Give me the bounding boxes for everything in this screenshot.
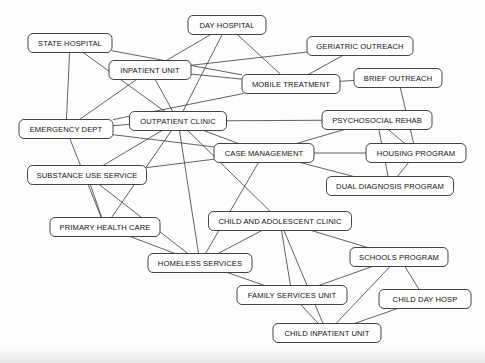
node-label-child_day_hosp: CHILD DAY HOSP bbox=[393, 295, 458, 304]
node-label-mobile_treatment: MOBILE TREATMENT bbox=[252, 80, 330, 89]
node-inpatient_unit[interactable]: INPATIENT UNIT bbox=[109, 61, 191, 80]
node-day_hospital[interactable]: DAY HOSPITAL bbox=[188, 16, 266, 35]
edge-inpatient_unit-to-mobile_treatment bbox=[191, 74, 242, 79]
node-brief_outreach[interactable]: BRIEF OUTREACH bbox=[354, 69, 442, 88]
edge-case_management-to-homeless_services bbox=[206, 163, 259, 254]
edge-mobile_treatment-to-brief_outreach bbox=[340, 80, 354, 81]
edge-geriatric_outreach-to-mobile_treatment bbox=[308, 56, 343, 75]
edge-case_management-to-emergency_dept bbox=[113, 135, 214, 147]
edge-family_services_unit-to-child_inpatient_unit bbox=[301, 305, 319, 324]
node-label-outpatient_clinic: OUTPATIENT CLINIC bbox=[140, 117, 216, 126]
edge-day_hospital-to-mobile_treatment bbox=[237, 35, 280, 75]
edge-case_management-to-dual_diagnosis bbox=[300, 163, 353, 177]
edge-schools_program-to-child_day_hosp bbox=[405, 267, 419, 290]
node-dual_diagnosis[interactable]: DUAL DIAGNOSIS PROGRAM bbox=[327, 177, 454, 196]
edge-psychosocial_rehab-to-housing_program bbox=[388, 130, 405, 144]
graph-canvas: STATE HOSPITALDAY HOSPITALINPATIENT UNIT… bbox=[0, 0, 485, 363]
edge-outpatient_clinic-to-child_adolescent bbox=[188, 131, 271, 212]
edge-inpatient_unit-to-geriatric_outreach bbox=[191, 52, 307, 65]
node-emergency_dept[interactable]: EMERGENCY DEPT bbox=[19, 120, 113, 139]
node-mobile_treatment[interactable]: MOBILE TREATMENT bbox=[242, 75, 340, 94]
node-label-geriatric_outreach: GERIATRIC OUTREACH bbox=[316, 42, 403, 51]
edge-outpatient_clinic-to-case_management bbox=[204, 131, 239, 144]
node-family_services_unit[interactable]: FAMILY SERVICES UNIT bbox=[237, 286, 347, 305]
node-label-dual_diagnosis: DUAL DIAGNOSIS PROGRAM bbox=[336, 182, 444, 191]
node-label-child_inpatient_unit: CHILD INPATIENT UNIT bbox=[284, 329, 369, 338]
node-substance_use_service[interactable]: SUBSTANCE USE SERVICE bbox=[28, 166, 147, 185]
edge-state_hospital-to-emergency_dept bbox=[66, 53, 69, 120]
node-label-family_services_unit: FAMILY SERVICES UNIT bbox=[248, 291, 337, 300]
node-label-case_management: CASE MANAGEMENT bbox=[225, 149, 304, 158]
node-schools_program[interactable]: SCHOOLS PROGRAM bbox=[350, 248, 448, 267]
node-child_adolescent[interactable]: CHILD AND ADOLESCENT CLINIC bbox=[209, 212, 352, 231]
node-outpatient_clinic[interactable]: OUTPATIENT CLINIC bbox=[130, 112, 227, 131]
node-layer: STATE HOSPITALDAY HOSPITALINPATIENT UNIT… bbox=[19, 16, 471, 343]
edge-homeless_services-to-family_services_unit bbox=[227, 273, 264, 286]
node-label-day_hospital: DAY HOSPITAL bbox=[199, 21, 254, 30]
edge-housing_program-to-dual_diagnosis bbox=[397, 163, 408, 177]
node-label-housing_program: HOUSING PROGRAM bbox=[377, 149, 455, 158]
node-child_day_hosp[interactable]: CHILD DAY HOSP bbox=[379, 290, 471, 309]
node-label-child_adolescent: CHILD AND ADOLESCENT CLINIC bbox=[218, 217, 342, 226]
node-case_management[interactable]: CASE MANAGEMENT bbox=[214, 144, 314, 163]
edge-inpatient_unit-to-emergency_dept bbox=[80, 80, 137, 120]
node-label-substance_use_service: SUBSTANCE USE SERVICE bbox=[37, 171, 138, 180]
node-homeless_services[interactable]: HOMELESS SERVICES bbox=[148, 254, 252, 273]
edge-child_adolescent-to-family_services_unit bbox=[282, 231, 291, 286]
node-label-brief_outreach: BRIEF OUTREACH bbox=[364, 74, 432, 83]
node-label-homeless_services: HOMELESS SERVICES bbox=[158, 259, 242, 268]
edge-schools_program-to-family_services_unit bbox=[319, 267, 373, 286]
edge-child_adolescent-to-child_inpatient_unit bbox=[284, 231, 323, 324]
edge-outpatient_clinic-to-homeless_services bbox=[179, 131, 198, 254]
edge-primary_health_care-to-homeless_services bbox=[130, 237, 175, 254]
edge-inpatient_unit-to-day_hospital bbox=[166, 35, 210, 61]
node-label-primary_health_care: PRIMARY HEALTH CARE bbox=[60, 223, 151, 232]
node-geriatric_outreach[interactable]: GERIATRIC OUTREACH bbox=[307, 37, 413, 56]
edge-case_management-to-substance_use_service bbox=[147, 159, 215, 167]
node-label-schools_program: SCHOOLS PROGRAM bbox=[359, 253, 439, 262]
node-label-emergency_dept: EMERGENCY DEPT bbox=[30, 125, 103, 134]
edge-substance_use_service-to-primary_health_care bbox=[90, 185, 101, 218]
node-label-inpatient_unit: INPATIENT UNIT bbox=[120, 66, 180, 75]
edge-psychosocial_rehab-to-case_management bbox=[297, 130, 345, 144]
node-housing_program[interactable]: HOUSING PROGRAM bbox=[366, 144, 466, 163]
edge-homeless_services-to-child_adolescent bbox=[218, 231, 262, 254]
node-label-state_hospital: STATE HOSPITAL bbox=[38, 39, 102, 48]
edge-outpatient_clinic-to-emergency_dept bbox=[113, 124, 130, 125]
edge-child_inpatient_unit-to-child_day_hosp bbox=[354, 309, 397, 324]
node-child_inpatient_unit[interactable]: CHILD INPATIENT UNIT bbox=[273, 324, 381, 343]
node-label-psychosocial_rehab: PSYCHOSOCIAL REHAB bbox=[332, 116, 422, 125]
edge-child_adolescent-to-schools_program bbox=[311, 231, 367, 248]
node-primary_health_care[interactable]: PRIMARY HEALTH CARE bbox=[50, 218, 160, 237]
node-psychosocial_rehab[interactable]: PSYCHOSOCIAL REHAB bbox=[322, 111, 432, 130]
services-network-diagram: STATE HOSPITALDAY HOSPITALINPATIENT UNIT… bbox=[0, 0, 485, 363]
node-state_hospital[interactable]: STATE HOSPITAL bbox=[28, 34, 112, 53]
